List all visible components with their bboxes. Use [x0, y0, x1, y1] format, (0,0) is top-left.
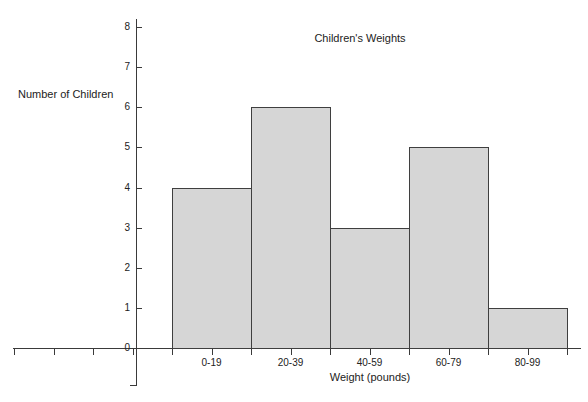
x-axis-tick — [133, 349, 134, 355]
y-axis-lower-stub-tick — [130, 385, 136, 386]
y-axis-tick-label: 4 — [112, 183, 130, 193]
x-axis-tick — [212, 349, 213, 355]
bar — [330, 228, 410, 349]
y-axis-tick-label: 6 — [112, 102, 130, 112]
y-axis-tick — [137, 268, 142, 269]
y-axis-lower-stub — [136, 348, 137, 386]
y-axis-tick — [137, 188, 142, 189]
x-axis-category-label: 20-39 — [256, 357, 326, 368]
bar — [251, 107, 331, 349]
x-axis-category-label: 40-59 — [335, 357, 405, 368]
x-axis-tick — [14, 349, 15, 355]
x-axis-title: Weight (pounds) — [300, 371, 440, 383]
y-axis-tick — [137, 147, 142, 148]
bar — [172, 188, 252, 350]
y-axis-tick — [137, 228, 142, 229]
x-axis-tick — [567, 349, 568, 355]
y-axis-tick — [137, 348, 142, 349]
x-axis-tick — [528, 349, 529, 355]
x-axis-tick — [409, 349, 410, 355]
x-axis-tick — [54, 349, 55, 355]
x-axis-tick — [488, 349, 489, 355]
x-axis-tick — [291, 349, 292, 355]
y-axis-tick-label: 7 — [112, 62, 130, 72]
x-axis-tick — [449, 349, 450, 355]
y-axis-tick-label: 5 — [112, 142, 130, 152]
bar — [488, 308, 568, 349]
y-axis-title: Number of Children — [18, 88, 113, 100]
bar — [409, 147, 489, 349]
x-axis-category-label: 80-99 — [493, 357, 563, 368]
y-axis-tick-label: 0 — [112, 343, 130, 353]
y-axis-tick — [137, 308, 142, 309]
histogram-chart: Children's Weights Number of Children 01… — [0, 0, 588, 402]
y-axis-tick-label: 2 — [112, 263, 130, 273]
y-axis-tick — [137, 27, 142, 28]
y-axis-line — [136, 19, 137, 349]
x-axis-tick — [93, 349, 94, 355]
chart-title: Children's Weights — [280, 32, 440, 44]
x-axis-tick — [370, 349, 371, 355]
y-axis-tick-label: 1 — [112, 303, 130, 313]
x-axis-tick — [330, 349, 331, 355]
y-axis-tick — [137, 67, 142, 68]
y-axis-tick-label: 3 — [112, 223, 130, 233]
x-axis-tick — [172, 349, 173, 355]
y-axis-tick — [137, 107, 142, 108]
x-axis-tick — [251, 349, 252, 355]
y-axis-tick-label: 8 — [112, 22, 130, 32]
x-axis-category-label: 0-19 — [177, 357, 247, 368]
x-axis-category-label: 60-79 — [414, 357, 484, 368]
